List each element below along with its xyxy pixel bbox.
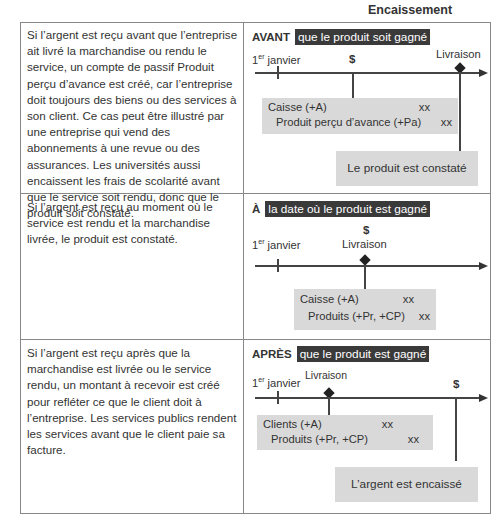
row-2-timeline-axis xyxy=(255,265,481,267)
row-3-start-label: 1er janvier xyxy=(252,376,301,389)
row-3-heading: APRÈS que le produit est gagné xyxy=(252,346,429,362)
row-1-delivery-line xyxy=(459,72,461,151)
row-3-cash-line xyxy=(455,397,457,461)
row-1-description: Si l’argent est reçu avant que l’entrepr… xyxy=(27,27,241,221)
row-3-arrow-icon xyxy=(479,394,488,402)
row-1-timeline-axis xyxy=(255,72,481,74)
row-2-arrow-icon xyxy=(479,262,488,270)
row-2-description: Si l’argent est reçu au moment où le ser… xyxy=(27,199,241,248)
row-1-result-box: Le produit est constaté xyxy=(336,151,478,186)
row-1-start-label: 1er janvier xyxy=(252,53,301,66)
row-2-keyword: À xyxy=(252,203,260,215)
row-2-delivery-line xyxy=(364,265,366,289)
row-1-cash-symbol: $ xyxy=(349,53,355,65)
column-divider xyxy=(243,22,244,514)
row-3-start-tick xyxy=(277,391,279,404)
row-1-journal-entry: Caisse (+A)xx Produit perçu d’avance (+P… xyxy=(262,98,458,134)
row-3-timeline-axis xyxy=(255,397,481,399)
row-2-cash-symbol: $ xyxy=(363,224,369,236)
row-3-description: Si l’argent est reçu après que la marcha… xyxy=(27,345,241,458)
row-3-delivery-line xyxy=(328,397,330,415)
row-2-heading: À la date où le produit est gagné xyxy=(252,201,430,217)
row-2-delivery-label: Livraison xyxy=(342,238,387,250)
row-2-start-label: 1er janvier xyxy=(252,238,301,251)
row-1-delivery-label: Livraison xyxy=(436,48,481,60)
row-3-highlight: que le produit est gagné xyxy=(297,346,430,362)
row-3-delivery-label: Livraison xyxy=(305,369,347,381)
row-1-heading: AVANT que le produit soit gagné xyxy=(252,29,430,45)
row-2-start-tick xyxy=(277,259,279,272)
row-1-cash-tick xyxy=(352,72,354,99)
row-3-cash-symbol: $ xyxy=(453,378,459,390)
row-1-start-tick xyxy=(277,66,279,79)
row-2-highlight: la date où le produit est gagné xyxy=(265,201,430,217)
row-2-journal-entry: Caisse (+A)xx Produits (+Pr, +CP)xx xyxy=(294,289,436,330)
row-1-arrow-icon xyxy=(479,69,488,77)
row-divider-2 xyxy=(20,339,491,340)
column-title: Encaissement xyxy=(368,3,452,17)
row-1-keyword: AVANT xyxy=(252,31,290,43)
row-3-result-box: L’argent est encaissé xyxy=(335,467,478,502)
row-3-keyword: APRÈS xyxy=(252,348,292,360)
row-3-journal-entry: Clients (+A)xx Produits (+Pr, +CP)xx xyxy=(257,415,433,450)
row-1-highlight: que le produit soit gagné xyxy=(295,29,430,45)
